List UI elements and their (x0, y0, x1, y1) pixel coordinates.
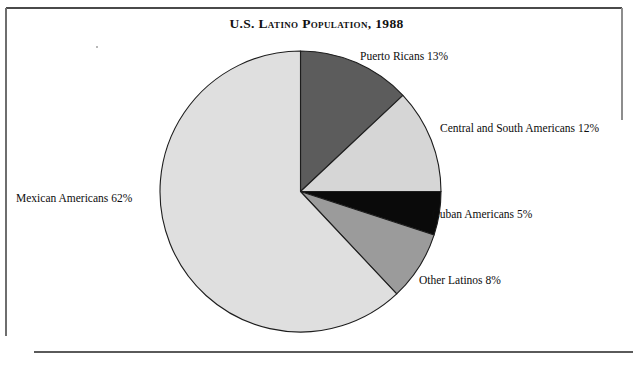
pie-chart (159, 50, 442, 333)
page-speck (96, 46, 98, 48)
frame-rule-bottom (34, 351, 633, 353)
slice-label-central-and-south-americans: Central and South Americans 12% (440, 122, 599, 135)
slice-label-other-latinos: Other Latinos 8% (419, 274, 501, 287)
slice-label-mexican-americans: Mexican Americans 62% (16, 192, 132, 205)
frame-rule-top (6, 7, 622, 9)
slice-label-cuban-americans: Cuban Americans 5% (432, 208, 532, 221)
frame-rule-left (5, 8, 7, 336)
chart-figure: U.S. Latino Population, 1988 Puerto Rica… (0, 0, 633, 369)
chart-title: U.S. Latino Population, 1988 (0, 16, 633, 32)
slice-label-puerto-ricans: Puerto Ricans 13% (360, 50, 448, 63)
